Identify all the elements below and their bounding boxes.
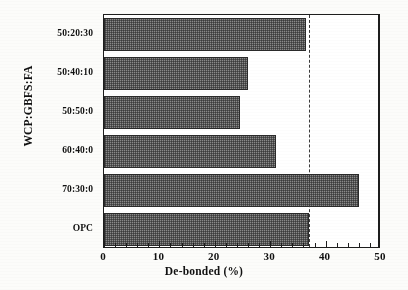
x-tick — [237, 243, 238, 247]
y-tick-label-60-40-0: 60:40:0 — [62, 145, 93, 155]
x-tick-label: 40 — [308, 250, 342, 262]
x-tick — [359, 243, 360, 247]
x-tick — [137, 243, 138, 247]
x-tick — [315, 243, 316, 247]
x-tick — [248, 243, 249, 247]
x-tick — [370, 243, 371, 247]
x-tick-label: 30 — [252, 250, 286, 262]
x-tick — [281, 243, 282, 247]
x-tick — [226, 243, 227, 247]
x-tick — [337, 243, 338, 247]
bar-50-50-0 — [104, 96, 240, 129]
y-tick-label-50-50-0: 50:50:0 — [62, 106, 93, 116]
figure-canvas: WCP:GBFS:FA 50:20:3050:40:1050:50:060:40… — [0, 0, 408, 290]
bar-50-40-10 — [104, 57, 248, 90]
x-tick-label: 0 — [86, 250, 120, 262]
x-tick — [259, 243, 260, 247]
x-tick — [182, 243, 183, 247]
x-tick-label: 20 — [197, 250, 231, 262]
x-tick — [204, 243, 205, 247]
y-tick-label-OPC: OPC — [73, 223, 93, 233]
bar-50-20-30 — [104, 18, 306, 51]
y-tick-label-50-20-30: 50:20:30 — [57, 28, 93, 38]
x-tick — [292, 243, 293, 247]
x-tick — [170, 243, 171, 247]
bar-60-40-0 — [104, 135, 276, 168]
x-tick — [159, 241, 160, 247]
x-axis-title: De-bonded (%) — [0, 265, 408, 277]
x-tick — [270, 241, 271, 247]
opc-reference-line — [309, 15, 310, 247]
x-tick — [148, 243, 149, 247]
x-tick-label: 10 — [141, 250, 175, 262]
x-tick — [193, 243, 194, 247]
x-tick-label: 50 — [363, 250, 397, 262]
x-tick — [126, 243, 127, 247]
x-tick — [303, 243, 304, 247]
bar-70-30-0 — [104, 174, 359, 207]
x-tick — [326, 241, 327, 247]
x-tick — [115, 243, 116, 247]
y-axis-tick-labels: 50:20:3050:40:1050:50:060:40:070:30:0OPC — [0, 0, 99, 290]
y-tick-label-50-40-10: 50:40:10 — [57, 67, 93, 77]
x-tick — [215, 241, 216, 247]
x-tick — [104, 241, 105, 247]
y-tick-label-70-30-0: 70:30:0 — [62, 184, 93, 194]
x-tick — [348, 243, 349, 247]
plot-area — [103, 14, 380, 248]
bar-OPC — [104, 213, 309, 246]
